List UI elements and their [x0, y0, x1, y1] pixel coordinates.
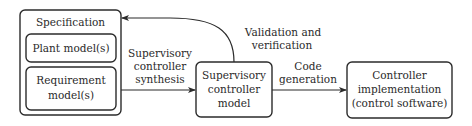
validation-label-line2: verification — [251, 39, 313, 51]
plant-models-box: Plant model(s) — [26, 34, 116, 62]
requirement-models-box: Requirement model(s) — [26, 67, 116, 110]
supervisory-model-box: Supervisory controller model — [196, 62, 272, 117]
plant-models-label: Plant model(s) — [32, 42, 109, 54]
synthesis-label-line1: Supervisory — [128, 47, 192, 59]
controller-impl-box: Controller implementation (control softw… — [347, 62, 452, 118]
controller-impl-label-line1: Controller — [372, 69, 428, 81]
codegen-label-line1: Code — [294, 60, 321, 72]
controller-impl-label-line2: implementation — [358, 83, 442, 95]
codegen-label-line2: generation — [279, 73, 337, 85]
codegen-edge: Code generation — [272, 60, 346, 90]
diagram-canvas: Specification Plant model(s) Requirement… — [0, 0, 472, 126]
supervisory-model-label-line1: Supervisory — [202, 69, 266, 81]
requirement-models-label-line1: Requirement — [36, 74, 106, 86]
validation-label-line1: Validation and — [244, 26, 322, 38]
synthesis-label-line2: controller — [134, 60, 187, 72]
synthesis-edge: Supervisory controller synthesis — [121, 47, 195, 90]
controller-impl-label-line3: (control software) — [352, 97, 448, 109]
requirement-models-label-line2: model(s) — [48, 89, 94, 101]
supervisory-model-label-line3: model — [218, 97, 251, 109]
supervisory-model-label-line2: controller — [208, 83, 261, 95]
specification-label: Specification — [36, 16, 105, 28]
synthesis-label-line3: synthesis — [135, 73, 184, 85]
